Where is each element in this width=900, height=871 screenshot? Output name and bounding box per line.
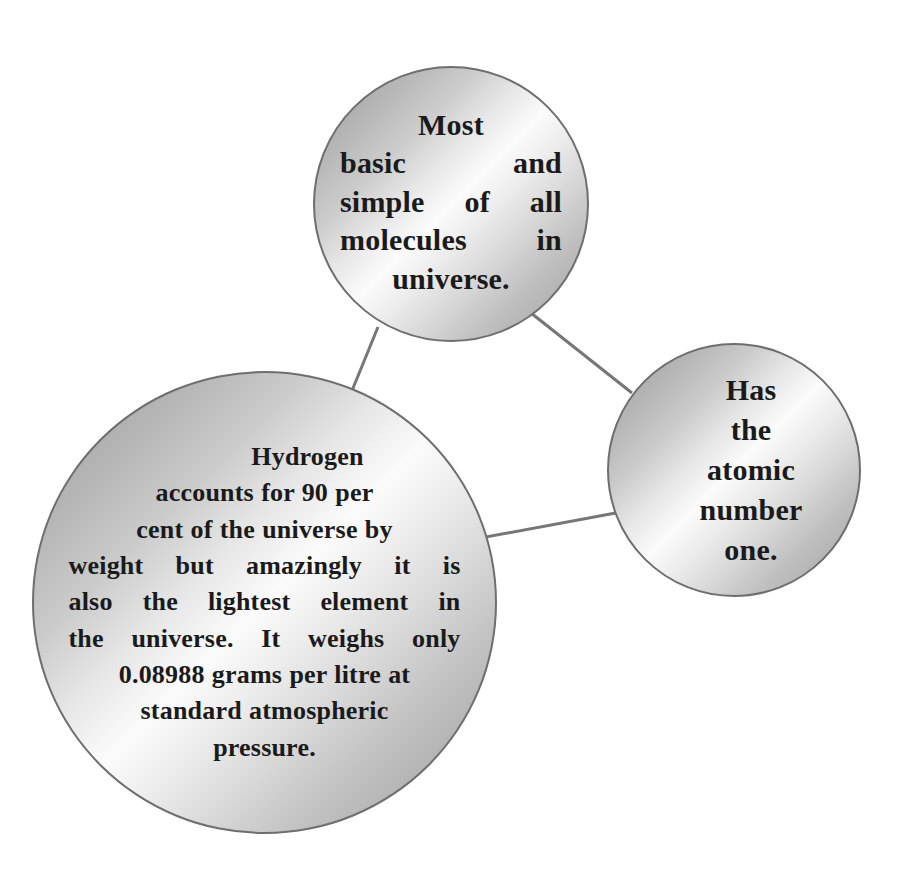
node-main-line-4: weight but amazingly it is xyxy=(69,548,461,584)
node-main-line-9: pressure. xyxy=(69,730,461,766)
diagram-canvas: Most basic and simple of all molecules i… xyxy=(0,0,900,871)
hydrogen-abundance-node[interactable]: Hydrogen accounts for 90 per cent of the… xyxy=(32,371,497,834)
node-top-line-2: basic and xyxy=(340,144,562,182)
most-basic-molecule-node[interactable]: Most basic and simple of all molecules i… xyxy=(313,66,589,342)
atomic-number-node[interactable]: Has the atomic number one. xyxy=(607,343,861,597)
node-main-line-6: the universe. It weighs only xyxy=(69,621,461,657)
node-main-line-5: also the lightest element in xyxy=(69,584,461,620)
node-top-line-4: molecules in xyxy=(340,221,562,259)
node-top-line-1: Most xyxy=(340,106,562,144)
most-basic-molecule-text: Most basic and simple of all molecules i… xyxy=(340,106,562,298)
node-top-line-5: universe. xyxy=(340,260,562,298)
node-right-line-4: number xyxy=(656,490,846,530)
edge-top-to-main xyxy=(349,327,378,398)
edge-top-to-right xyxy=(531,313,632,393)
node-right-line-5: one. xyxy=(656,530,846,570)
node-top-line-3: simple of all xyxy=(340,183,562,221)
node-right-line-1: Has xyxy=(656,370,846,410)
node-main-line-3: cent of the universe by xyxy=(69,512,461,548)
node-main-line-8: standard atmospheric xyxy=(69,693,461,729)
hydrogen-abundance-text: Hydrogen accounts for 90 per cent of the… xyxy=(69,439,461,767)
node-main-line-2: accounts for 90 per xyxy=(69,475,461,511)
node-main-line-1: Hydrogen xyxy=(69,439,461,475)
atomic-number-text: Has the atomic number one. xyxy=(656,370,846,569)
node-right-line-3: atomic xyxy=(656,450,846,490)
node-right-line-2: the xyxy=(656,410,846,450)
node-main-line-7: 0.08988 grams per litre at xyxy=(69,657,461,693)
